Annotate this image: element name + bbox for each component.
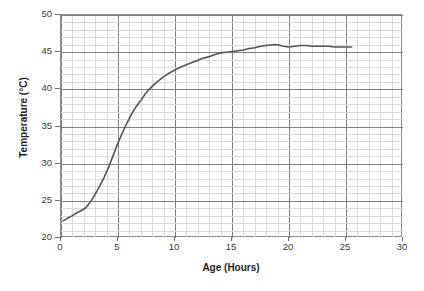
x-tick-label-5: 5 [102,241,132,252]
x-tick-mark-5 [117,237,118,241]
y-tick-label-25: 25 [0,195,52,205]
y-tick-mark-50 [55,14,60,15]
x-tick-mark-0 [60,237,61,241]
x-tick-label-25: 25 [330,241,360,252]
x-tick-mark-30 [402,237,403,241]
x-tick-label-30: 30 [387,241,417,252]
y-tick-mark-45 [55,51,60,52]
x-axis-title: Age (Hours) [60,262,402,273]
x-tick-mark-10 [174,237,175,241]
x-tick-label-15: 15 [216,241,246,252]
x-tick-label-20: 20 [273,241,303,252]
y-tick-mark-25 [55,200,60,201]
y-axis-title: Temperature (°C) [18,48,29,188]
x-tick-mark-15 [231,237,232,241]
x-tick-mark-25 [345,237,346,241]
line-chart: 20253035404550 051015202530 Age (Hours) … [0,0,424,291]
x-tick-mark-20 [288,237,289,241]
x-tick-label-10: 10 [159,241,189,252]
temperature-series-line [61,15,403,238]
y-tick-mark-35 [55,126,60,127]
y-tick-label-50: 50 [0,9,52,19]
plot-area [60,14,402,237]
y-tick-mark-40 [55,88,60,89]
x-tick-label-0: 0 [45,241,75,252]
y-tick-mark-30 [55,163,60,164]
